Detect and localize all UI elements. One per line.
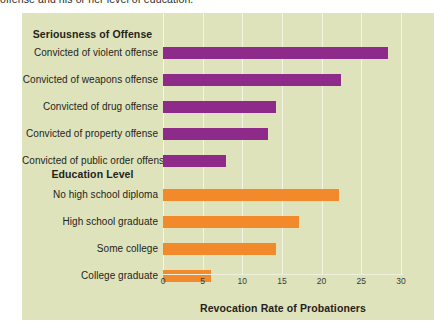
bar-offense bbox=[163, 47, 388, 59]
bar-offense bbox=[163, 101, 276, 113]
category-label: Convicted of violent offense bbox=[22, 46, 158, 60]
bar-education bbox=[163, 216, 299, 228]
category-label: Some college bbox=[22, 242, 158, 256]
chart-panel: Seriousness of Offense Education Level C… bbox=[22, 13, 434, 320]
body-caption-text: offense and his or her level of educatio… bbox=[0, 0, 193, 5]
screenshot-root: offense and his or her level of educatio… bbox=[0, 0, 434, 334]
bar-education bbox=[163, 243, 276, 255]
x-tick-label: 10 bbox=[230, 276, 254, 286]
x-axis-title: Revocation Rate of Probationers bbox=[163, 302, 403, 314]
section-heading-education: Education Level bbox=[22, 168, 163, 180]
x-tick-label: 25 bbox=[349, 276, 373, 286]
bar-education bbox=[163, 189, 339, 201]
x-tick-label: 20 bbox=[310, 276, 334, 286]
x-tick-label: 5 bbox=[191, 276, 215, 286]
table-row: Convicted of violent offense bbox=[22, 46, 434, 60]
table-row: Some college bbox=[22, 242, 434, 256]
body-caption: offense and his or her level of educatio… bbox=[0, 0, 434, 12]
category-label: Convicted of public order offense bbox=[22, 154, 158, 168]
category-label: College graduate bbox=[22, 269, 158, 283]
table-row: High school graduate bbox=[22, 215, 434, 229]
x-axis-line bbox=[163, 274, 403, 275]
section-heading-offense: Seriousness of Offense bbox=[22, 28, 163, 40]
category-label: Convicted of weapons offense bbox=[22, 73, 158, 87]
category-label: High school graduate bbox=[22, 215, 158, 229]
table-row: Convicted of drug offense bbox=[22, 100, 434, 114]
bar-offense bbox=[163, 155, 226, 167]
category-label: Convicted of property offense bbox=[22, 127, 158, 141]
bar-offense bbox=[163, 74, 341, 86]
x-tick-label: 0 bbox=[151, 276, 175, 286]
table-row: Convicted of property offense bbox=[22, 127, 434, 141]
table-row: Convicted of public order offense bbox=[22, 154, 434, 168]
x-tick-label: 30 bbox=[389, 276, 413, 286]
table-row: Convicted of weapons offense bbox=[22, 73, 434, 87]
table-row: No high school diploma bbox=[22, 188, 434, 202]
bar-offense bbox=[163, 128, 268, 140]
category-label: No high school diploma bbox=[22, 188, 158, 202]
x-tick-label: 15 bbox=[270, 276, 294, 286]
category-label: Convicted of drug offense bbox=[22, 100, 158, 114]
